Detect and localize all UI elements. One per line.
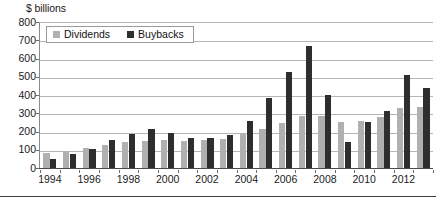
bottom-divider <box>0 196 436 197</box>
bar-group-1998 <box>119 22 139 168</box>
bar-buybacks-2009 <box>345 142 351 168</box>
bar-buybacks-2008 <box>325 95 331 168</box>
y-tick-label-0: 0 <box>4 163 36 174</box>
bar-buybacks-2010 <box>365 122 371 168</box>
bar-group-2009 <box>335 22 355 168</box>
y-tick-label-600: 600 <box>4 53 36 64</box>
x-tick-label-2012: 2012 <box>388 174 420 185</box>
y-tick-label-500: 500 <box>4 71 36 82</box>
x-tick-label-1994: 1994 <box>34 174 66 185</box>
y-tick-label-700: 700 <box>4 35 36 46</box>
bar-group-2007 <box>295 22 315 168</box>
x-tick-label-1998: 1998 <box>112 174 144 185</box>
bar-buybacks-1995 <box>70 154 76 168</box>
bar-dividends-1999 <box>142 141 148 168</box>
x-axis-baseline <box>39 168 433 169</box>
bar-dividends-2001 <box>181 141 187 168</box>
bar-group-2005 <box>256 22 276 168</box>
bar-dividends-2011 <box>377 117 383 168</box>
legend-swatch-buybacks <box>127 31 134 38</box>
legend-label-dividends: Dividends <box>64 29 110 40</box>
bar-dividends-1994 <box>43 153 49 168</box>
bar-buybacks-1994 <box>50 159 56 168</box>
bar-buybacks-2002 <box>207 138 213 168</box>
bar-dividends-2009 <box>338 122 344 168</box>
x-axis-labels: 1994199619982000200220042006200820102012 <box>40 170 433 190</box>
bar-buybacks-2003 <box>227 135 233 168</box>
bar-dividends-2003 <box>220 139 226 168</box>
bar-group-2013 <box>413 22 433 168</box>
y-axis-ticks: 0100200300400500600700800 <box>0 0 36 205</box>
y-tick-label-400: 400 <box>4 90 36 101</box>
bar-group-2002 <box>197 22 217 168</box>
bar-dividends-2010 <box>358 121 364 168</box>
bar-group-2006 <box>276 22 296 168</box>
bar-group-2011 <box>374 22 394 168</box>
bar-dividends-1997 <box>102 145 108 168</box>
bar-dividends-2005 <box>259 129 265 168</box>
legend-item-buybacks: Buybacks <box>127 29 184 40</box>
bar-buybacks-2012 <box>404 75 410 168</box>
bar-buybacks-2004 <box>247 121 253 168</box>
bar-group-2003 <box>217 22 237 168</box>
bar-chart: $ billions 0100200300400500600700800 Div… <box>0 0 436 205</box>
x-tick-label-2006: 2006 <box>270 174 302 185</box>
bar-dividends-1996 <box>83 148 89 168</box>
bar-buybacks-1998 <box>129 134 135 168</box>
bar-buybacks-1999 <box>148 129 154 168</box>
bar-buybacks-2007 <box>306 46 312 168</box>
x-tick-label-2008: 2008 <box>309 174 341 185</box>
legend-item-dividends: Dividends <box>53 29 110 40</box>
bar-group-1997 <box>99 22 119 168</box>
bar-dividends-1995 <box>63 151 69 168</box>
x-tick-label-2002: 2002 <box>191 174 223 185</box>
bar-group-2008 <box>315 22 335 168</box>
x-tick-mark-20 <box>433 170 434 173</box>
bar-group-2000 <box>158 22 178 168</box>
bar-group-1994 <box>40 22 60 168</box>
bar-group-2001 <box>178 22 198 168</box>
bar-dividends-2007 <box>299 116 305 168</box>
x-tick-label-2010: 2010 <box>348 174 380 185</box>
bars-layer <box>40 22 433 168</box>
bar-dividends-2013 <box>417 107 423 168</box>
y-tick-label-800: 800 <box>4 17 36 28</box>
bar-group-2012 <box>394 22 414 168</box>
x-tick-label-1996: 1996 <box>73 174 105 185</box>
x-tick-label-2000: 2000 <box>152 174 184 185</box>
bar-dividends-2000 <box>161 140 167 168</box>
bar-group-1996 <box>79 22 99 168</box>
bar-buybacks-2005 <box>266 98 272 168</box>
bar-buybacks-1996 <box>89 149 95 168</box>
x-tick-label-2004: 2004 <box>230 174 262 185</box>
bar-dividends-2004 <box>240 134 246 168</box>
legend-label-buybacks: Buybacks <box>138 29 184 40</box>
bar-dividends-2012 <box>397 108 403 168</box>
bar-dividends-1998 <box>122 142 128 168</box>
bar-group-1999 <box>138 22 158 168</box>
bar-group-1995 <box>60 22 80 168</box>
bar-group-2010 <box>354 22 374 168</box>
bar-dividends-2006 <box>279 123 285 168</box>
chart-legend: Dividends Buybacks <box>46 26 194 43</box>
y-tick-label-300: 300 <box>4 108 36 119</box>
y-tick-label-100: 100 <box>4 144 36 155</box>
bar-buybacks-2013 <box>423 88 429 168</box>
bar-buybacks-2011 <box>384 111 390 168</box>
bar-buybacks-2000 <box>168 133 174 168</box>
bar-buybacks-2006 <box>286 72 292 168</box>
bar-dividends-2002 <box>201 140 207 168</box>
bar-buybacks-2001 <box>188 138 194 168</box>
bar-buybacks-1997 <box>109 140 115 168</box>
legend-swatch-dividends <box>53 31 60 38</box>
bar-group-2004 <box>237 22 257 168</box>
y-tick-label-200: 200 <box>4 126 36 137</box>
bar-dividends-2008 <box>318 116 324 168</box>
